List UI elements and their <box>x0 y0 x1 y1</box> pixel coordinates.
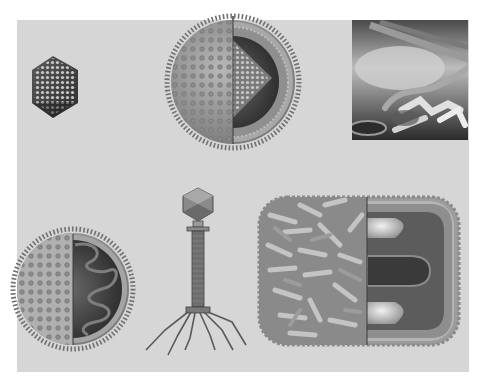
electron-micrograph <box>350 20 470 140</box>
enveloped-rna-virus <box>13 229 133 349</box>
icosahedral-virus <box>32 56 78 118</box>
enveloped-virus-cutaway <box>167 16 299 148</box>
virus-illustration <box>0 0 482 388</box>
bacteriophage <box>146 188 246 355</box>
poxvirus <box>259 197 459 345</box>
